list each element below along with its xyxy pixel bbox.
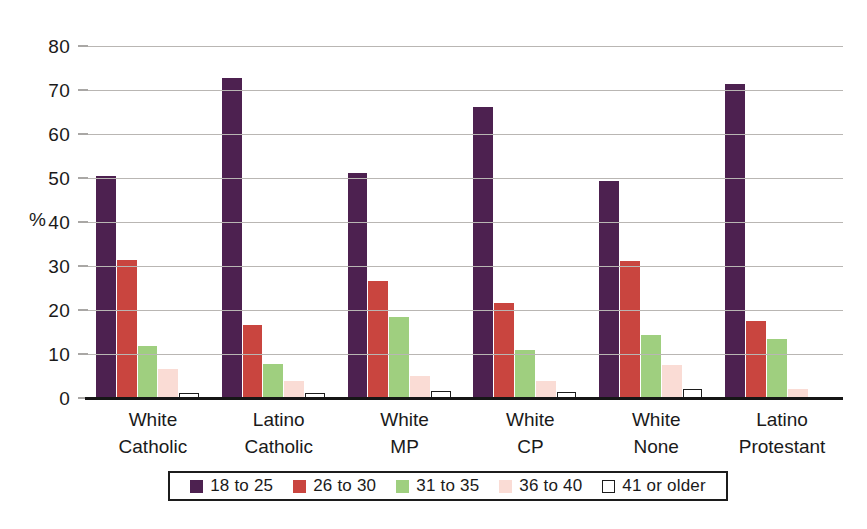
y-tick-mark: [78, 354, 88, 355]
y-tick-label: 80: [26, 37, 70, 56]
bar: [494, 303, 514, 398]
x-axis-label-line: White: [469, 406, 591, 433]
y-tick-label: 60: [26, 125, 70, 144]
legend-swatch-icon: [190, 480, 203, 493]
gridline: [88, 354, 843, 355]
plot-area: [88, 46, 843, 398]
bar: [515, 350, 535, 398]
legend-swatch-icon: [499, 480, 512, 493]
gridline: [88, 266, 843, 267]
legend-swatch-icon: [293, 480, 306, 493]
x-axis-label-line: MP: [344, 433, 466, 460]
gridline: [88, 178, 843, 179]
x-axis-label-line: White: [344, 406, 466, 433]
gridline: [88, 310, 843, 311]
y-tick-mark: [78, 178, 88, 179]
bar: [348, 173, 368, 398]
x-axis-label: LatinoCatholic: [214, 406, 340, 464]
x-axis-label-line: Catholic: [218, 433, 340, 460]
legend-swatch-icon: [396, 480, 409, 493]
bar: [620, 261, 640, 398]
y-axis: 01020304050607080: [0, 0, 88, 420]
legend-label: 36 to 40: [519, 476, 582, 496]
x-axis-label: LatinoProtestant: [717, 406, 843, 464]
bar: [746, 321, 766, 398]
x-axis-label-line: None: [595, 433, 717, 460]
y-tick-label: 20: [26, 301, 70, 320]
x-axis-label: WhiteNone: [591, 406, 717, 464]
bar: [263, 364, 283, 398]
y-tick-label: 0: [26, 389, 70, 408]
y-tick-mark: [78, 90, 88, 91]
x-axis-label: WhiteCP: [465, 406, 591, 464]
x-axis-labels: WhiteCatholicLatinoCatholicWhiteMPWhiteC…: [88, 406, 843, 464]
gridline: [88, 46, 843, 47]
y-tick-label: 30: [26, 257, 70, 276]
bar: [96, 176, 116, 398]
legend-item[interactable]: 31 to 35: [396, 476, 479, 496]
gridline: [88, 222, 843, 223]
bar: [158, 369, 178, 398]
legend-label: 41 or older: [622, 476, 705, 496]
bar: [117, 260, 137, 398]
x-axis-line: [85, 397, 843, 400]
bar: [389, 317, 409, 398]
bar: [368, 281, 388, 398]
legend-item[interactable]: 26 to 30: [293, 476, 376, 496]
y-tick-mark: [78, 134, 88, 135]
legend-label: 26 to 30: [313, 476, 376, 496]
x-axis-label-line: Latino: [218, 406, 340, 433]
x-axis-label-line: Protestant: [721, 433, 843, 460]
y-tick-label: 40: [26, 213, 70, 232]
legend-swatch-icon: [602, 480, 615, 493]
y-tick-label: 50: [26, 169, 70, 188]
y-tick-mark: [78, 222, 88, 223]
legend-item[interactable]: 36 to 40: [499, 476, 582, 496]
bar: [641, 335, 661, 398]
y-tick-mark: [78, 266, 88, 267]
legend-label: 31 to 35: [416, 476, 479, 496]
x-axis-label: WhiteCatholic: [88, 406, 214, 464]
bar: [243, 325, 263, 398]
bar: [662, 365, 682, 398]
y-tick-mark: [78, 46, 88, 47]
x-axis-label-line: Catholic: [92, 433, 214, 460]
x-axis-label-line: White: [595, 406, 717, 433]
gridline: [88, 134, 843, 135]
bar: [536, 381, 556, 398]
x-axis-label-line: White: [92, 406, 214, 433]
y-tick-label: 70: [26, 81, 70, 100]
gridline: [88, 90, 843, 91]
x-axis-label-line: CP: [469, 433, 591, 460]
y-tick-label: 10: [26, 345, 70, 364]
bar: [410, 376, 430, 398]
chart-legend: 18 to 2526 to 3031 to 3536 to 4041 or ol…: [168, 471, 728, 501]
legend-item[interactable]: 18 to 25: [190, 476, 273, 496]
x-axis-label: WhiteMP: [340, 406, 466, 464]
bar: [767, 339, 787, 398]
x-axis-label-line: Latino: [721, 406, 843, 433]
bar-chart: % 01020304050607080 WhiteCatholicLatinoC…: [0, 0, 867, 529]
y-tick-mark: [78, 310, 88, 311]
bar: [725, 84, 745, 398]
bar: [599, 181, 619, 398]
legend-item[interactable]: 41 or older: [602, 476, 705, 496]
bar: [284, 381, 304, 398]
bar: [222, 78, 242, 398]
legend-label: 18 to 25: [210, 476, 273, 496]
